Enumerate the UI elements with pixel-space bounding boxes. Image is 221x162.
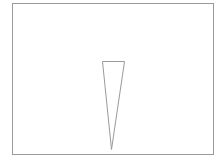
diagram-canvas bbox=[0, 0, 221, 162]
frame-rectangle bbox=[13, 4, 214, 155]
inverted-triangle bbox=[103, 62, 125, 150]
